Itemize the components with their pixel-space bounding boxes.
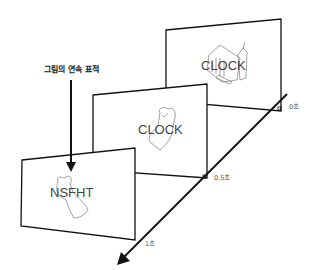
time-label-0-5: 0.5초 [214, 172, 230, 182]
frame-front-word: NSFHT [50, 185, 93, 200]
series-title-label: 그림의 연속 표적 [44, 63, 99, 74]
frame-middle-word: CLOCK [138, 122, 183, 137]
frame-back-word: CLOCK [201, 58, 246, 73]
time-label-0: 0초 [289, 101, 299, 111]
time-label-1: 1초 [145, 238, 155, 248]
